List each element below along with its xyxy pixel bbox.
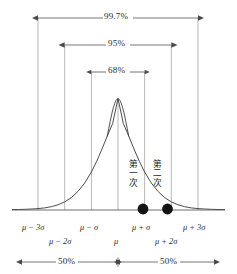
normal-distribution-figure: 99.7% 95% 68% 第 一 次 第 二 次 μ − 3σ μ − σ μ… xyxy=(0,0,237,274)
measurement-dot-first xyxy=(138,204,149,215)
bracket-95-label: 95% xyxy=(108,39,125,48)
bracket-997-label: 99.7% xyxy=(104,12,128,21)
axis-label-mu-plus-3sigma: μ + 3σ xyxy=(183,224,205,232)
axis-label-mu-minus-3sigma: μ − 3σ xyxy=(22,224,44,232)
normal-curve xyxy=(12,99,225,210)
bracket-68-label: 68% xyxy=(108,66,125,75)
marker-first-char-3: 次 xyxy=(128,179,138,188)
marker-label-second: 第 二 次 xyxy=(153,160,163,188)
marker-label-first: 第 一 次 xyxy=(128,160,138,188)
footer-right-label: 50% xyxy=(160,257,177,266)
axis-label-mu-minus-2sigma: μ − 2σ xyxy=(49,238,71,246)
footer-left-label: 50% xyxy=(58,257,75,266)
axis-label-mu-minus-1sigma: μ − σ xyxy=(80,224,98,232)
axis-label-mu: μ xyxy=(114,238,118,246)
measurement-dot-second xyxy=(162,204,173,215)
axis-label-mu-plus-2sigma: μ + 2σ xyxy=(155,238,177,246)
marker-second-char-3: 次 xyxy=(153,179,163,188)
axis-label-mu-plus-1sigma: μ + σ xyxy=(132,224,150,232)
